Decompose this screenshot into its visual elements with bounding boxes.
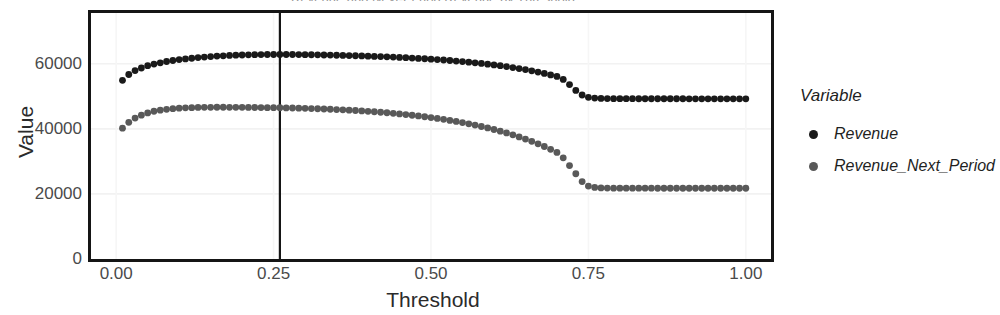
data-point	[698, 185, 705, 192]
data-point	[566, 81, 573, 88]
data-point	[220, 104, 227, 111]
data-point	[201, 104, 208, 111]
data-point	[365, 53, 372, 60]
data-point	[201, 54, 208, 61]
chart-figure: Revenue and Next-Period Revenue by Thres…	[0, 0, 1000, 315]
data-point	[635, 95, 642, 102]
data-point	[251, 51, 258, 58]
data-point	[207, 53, 214, 60]
data-point	[428, 114, 435, 121]
data-point	[264, 104, 271, 111]
data-point	[295, 105, 302, 112]
data-point	[283, 51, 290, 58]
data-point	[522, 136, 529, 143]
legend-entry[interactable]: Revenue_Next_Period	[800, 152, 996, 180]
data-point	[516, 65, 523, 72]
data-point	[384, 109, 391, 116]
data-point	[604, 95, 611, 102]
data-point	[711, 185, 718, 192]
data-point	[610, 95, 617, 102]
y-axis-tick-label: 0	[2, 249, 82, 269]
data-point	[528, 138, 535, 145]
data-point	[195, 54, 202, 61]
data-point	[264, 51, 271, 58]
data-point	[528, 67, 535, 74]
data-point	[724, 95, 731, 102]
data-point	[396, 54, 403, 61]
data-point	[686, 95, 693, 102]
data-point	[207, 104, 214, 111]
data-point	[214, 104, 221, 111]
data-point	[724, 185, 731, 192]
data-point	[138, 112, 145, 119]
data-point	[239, 104, 246, 111]
data-point	[503, 130, 510, 137]
data-point	[390, 54, 397, 61]
y-axis-tick-labels: 0200004000060000	[0, 0, 82, 315]
data-point	[736, 185, 743, 192]
data-point	[541, 70, 548, 77]
data-point	[371, 53, 378, 60]
y-axis-label: Value	[14, 52, 38, 212]
data-point	[220, 52, 227, 59]
data-point	[421, 113, 428, 120]
data-point	[446, 57, 453, 64]
data-point	[276, 51, 283, 58]
data-point	[232, 104, 239, 111]
data-point	[138, 65, 145, 72]
data-point	[308, 51, 315, 58]
data-point	[478, 123, 485, 130]
data-point	[163, 106, 170, 113]
data-point	[598, 95, 605, 102]
data-point	[661, 185, 668, 192]
data-point	[579, 92, 586, 99]
legend-label: Revenue	[826, 125, 898, 143]
data-point	[484, 125, 491, 132]
data-point	[598, 185, 605, 192]
data-point	[339, 106, 346, 113]
data-point	[119, 77, 126, 84]
data-point	[516, 133, 523, 140]
data-point	[144, 62, 151, 69]
data-point	[176, 105, 183, 112]
data-point	[377, 53, 384, 60]
data-point	[679, 95, 686, 102]
data-point	[686, 185, 693, 192]
data-point	[446, 117, 453, 124]
data-point	[509, 131, 516, 138]
data-point	[384, 53, 391, 60]
legend-marker	[800, 162, 826, 171]
data-point	[554, 73, 561, 80]
data-point	[585, 183, 592, 190]
data-point	[736, 95, 743, 102]
data-point	[396, 111, 403, 118]
data-point	[522, 66, 529, 73]
data-point	[358, 53, 365, 60]
data-point	[327, 52, 334, 59]
data-point	[698, 95, 705, 102]
data-point	[648, 185, 655, 192]
data-point	[604, 185, 611, 192]
plot-canvas	[91, 13, 771, 259]
data-point	[478, 60, 485, 67]
data-point	[560, 76, 567, 83]
data-point	[258, 104, 265, 111]
data-point	[346, 107, 353, 114]
data-point	[346, 52, 353, 59]
data-point	[214, 53, 221, 60]
data-point	[409, 55, 416, 62]
data-point	[459, 119, 466, 126]
data-point	[289, 51, 296, 58]
plot-panel	[88, 10, 774, 262]
data-point	[572, 170, 579, 177]
data-point	[579, 178, 586, 185]
data-point	[409, 112, 416, 119]
data-point	[616, 185, 623, 192]
data-point	[717, 95, 724, 102]
data-point	[453, 58, 460, 65]
data-point	[453, 118, 460, 125]
legend-entry[interactable]: Revenue	[800, 120, 996, 148]
data-point	[239, 52, 246, 59]
data-point	[679, 185, 686, 192]
data-point	[673, 95, 680, 102]
